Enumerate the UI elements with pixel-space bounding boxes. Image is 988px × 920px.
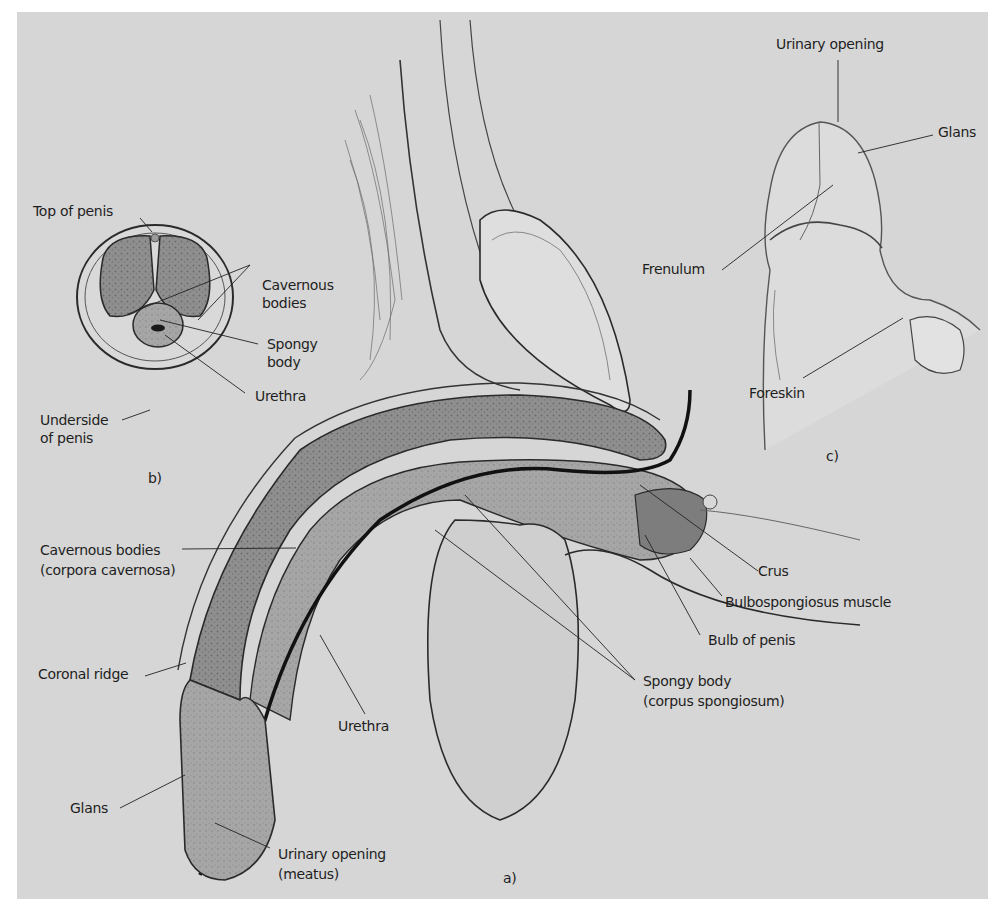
label-cavernous-bodies-a-1: Cavernous bodies (40, 542, 160, 559)
label-spongy-body-a-1: Spongy body (643, 673, 731, 690)
label-foreskin: Foreskin (749, 385, 805, 402)
label-urinary-opening-a-2: (meatus) (278, 866, 339, 883)
sagittal-section-drawing (120, 20, 860, 880)
label-crus: Crus (758, 563, 789, 580)
label-spongy-body-b-1: Spongy (267, 336, 318, 353)
label-underside-1: Underside (40, 412, 108, 429)
label-bulb-of-penis: Bulb of penis (708, 632, 795, 649)
label-top-of-penis: Top of penis (33, 203, 113, 220)
label-urethra-b: Urethra (255, 388, 306, 405)
label-frenulum: Frenulum (642, 261, 705, 278)
label-cavernous-bodies-b-2: bodies (262, 295, 306, 312)
label-glans-c: Glans (938, 124, 976, 141)
label-bulbospongiosus-muscle: Bulbospongiosus muscle (725, 594, 891, 611)
panel-marker-a: a) (503, 870, 516, 887)
label-glans-a: Glans (70, 800, 108, 817)
label-cavernous-bodies-a-2: (corpora cavernosa) (40, 562, 175, 579)
label-urinary-opening-a-1: Urinary opening (278, 846, 386, 863)
label-urinary-opening-c: Urinary opening (776, 36, 884, 53)
anatomy-illustration (0, 0, 988, 920)
label-spongy-body-a-2: (corpus spongiosum) (643, 693, 785, 710)
label-cavernous-bodies-b-1: Cavernous (262, 277, 334, 294)
panel-marker-c: c) (826, 448, 839, 465)
label-underside-2: of penis (40, 430, 93, 447)
panel-marker-b: b) (148, 470, 162, 487)
label-urethra-a: Urethra (338, 718, 389, 735)
label-coronal-ridge: Coronal ridge (38, 666, 128, 683)
cross-section-drawing (77, 218, 258, 420)
label-spongy-body-b-2: body (267, 354, 300, 371)
